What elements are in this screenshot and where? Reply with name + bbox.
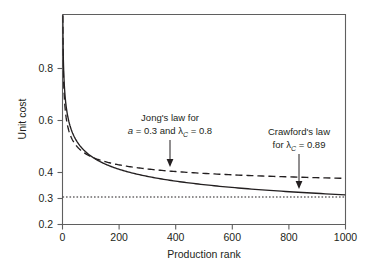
chart-figure: 0.8 0.6 0.4 0.3 0.2 0 200 400 600 800 10… xyxy=(0,0,373,276)
jong-law-curve xyxy=(63,0,346,178)
y-axis-ticks xyxy=(58,69,63,225)
x-tick-label-800: 800 xyxy=(280,231,298,243)
learning-curve-chart: 0.8 0.6 0.4 0.3 0.2 0 200 400 600 800 10… xyxy=(0,0,373,276)
jong-annotation-line1: Jong's law for xyxy=(141,112,199,123)
x-tick-label-400: 400 xyxy=(167,231,185,243)
crawford-law-curve xyxy=(63,0,346,195)
y-axis-title: Unit cost xyxy=(16,99,28,140)
x-axis-tick-labels: 0 200 400 600 800 1000 xyxy=(60,231,358,243)
crawford-annotation-line2: for λC = 0.89 xyxy=(273,139,326,152)
x-axis-ticks xyxy=(63,225,346,230)
crawford-annotation: Crawford's law for λC = 0.89 xyxy=(268,126,330,189)
jong-annotation: Jong's law for a = 0.3 and λC = 0.8 xyxy=(128,112,212,167)
x-tick-label-1000: 1000 xyxy=(334,231,358,243)
y-tick-label-0.4: 0.4 xyxy=(38,166,53,178)
x-axis-title: Production rank xyxy=(167,248,241,260)
jong-leader-arrowhead xyxy=(167,159,174,167)
x-tick-label-0: 0 xyxy=(60,231,66,243)
crawford-line2-suffix: = 0.89 xyxy=(296,139,325,150)
x-tick-label-600: 600 xyxy=(224,231,242,243)
crawford-line2-prefix: for xyxy=(273,139,287,150)
jong-line2-suffix: = 0.8 xyxy=(188,125,212,136)
y-tick-label-0.6: 0.6 xyxy=(38,114,53,126)
y-tick-label-0.2: 0.2 xyxy=(38,218,53,230)
data-curves xyxy=(63,0,346,197)
y-tick-label-0.3: 0.3 xyxy=(38,192,53,204)
jong-annotation-line2: a = 0.3 and λC = 0.8 xyxy=(128,125,212,138)
jong-line2-mid: = 0.3 and xyxy=(133,125,178,136)
x-tick-label-200: 200 xyxy=(110,231,128,243)
crawford-annotation-line1: Crawford's law xyxy=(268,126,330,137)
y-axis-tick-labels: 0.8 0.6 0.4 0.3 0.2 xyxy=(38,62,53,230)
crawford-leader-arrowhead xyxy=(296,181,303,189)
y-tick-label-0.8: 0.8 xyxy=(38,62,53,74)
